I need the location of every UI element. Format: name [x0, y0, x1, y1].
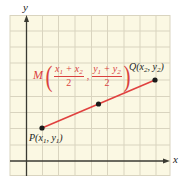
- midpoint-label: M ( x1 + x2 2 , y1 + y2 2 ): [33, 62, 132, 89]
- midpoint-diagram: [0, 0, 182, 182]
- point-q-label: Q(x2, y2): [129, 62, 164, 74]
- point-m: [96, 101, 101, 106]
- point-p-label: P(x1, y1): [29, 133, 63, 145]
- open-paren: (: [46, 62, 53, 89]
- y-midpoint-fraction: y1 + y2 2: [92, 63, 122, 89]
- point-q: [152, 77, 157, 82]
- grid-background: [10, 15, 170, 176]
- x-axis-label: x: [173, 154, 178, 165]
- comma: ,: [87, 70, 90, 81]
- close-paren: ): [123, 62, 130, 89]
- x-midpoint-fraction: x1 + x2 2: [54, 63, 84, 89]
- point-p: [39, 125, 44, 130]
- midpoint-name: M: [33, 68, 43, 83]
- y-axis-label: y: [23, 2, 28, 13]
